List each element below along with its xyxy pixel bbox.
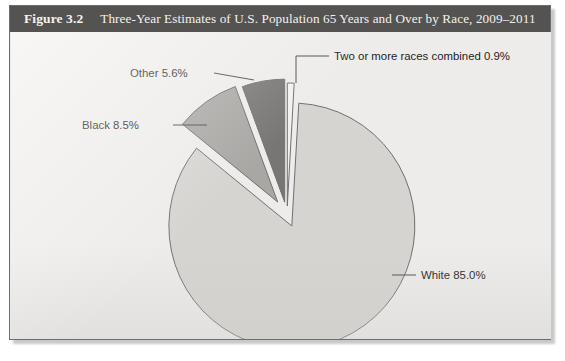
figure-caption: Three-Year Estimates of U.S. Population … bbox=[83, 11, 535, 27]
figure-frame: Figure 3.2 Three-Year Estimates of U.S. … bbox=[9, 5, 551, 340]
pie-chart-plot-area: Black 8.5% Other 5.6% Two or more races … bbox=[11, 32, 551, 339]
figure-header-bar: Figure 3.2 Three-Year Estimates of U.S. … bbox=[10, 6, 550, 32]
pie-label-two-or-more-races: Two or more races combined 0.9% bbox=[334, 50, 510, 62]
leader-line-other bbox=[214, 73, 254, 80]
pie-slice-two-or-more-races[interactable] bbox=[287, 83, 294, 206]
pie-label-other: Other 5.6% bbox=[130, 67, 188, 79]
pie-chart-svg: Black 8.5% Other 5.6% Two or more races … bbox=[11, 32, 551, 339]
leader-line-two-or-more bbox=[296, 56, 329, 83]
pie-label-white: White 85.0% bbox=[421, 269, 486, 281]
figure-number: Figure 3.2 bbox=[10, 11, 83, 27]
pie-label-black: Black 8.5% bbox=[82, 119, 139, 131]
